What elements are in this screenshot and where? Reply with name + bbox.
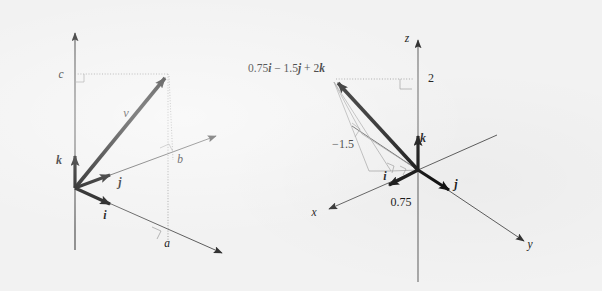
left-right-angle-b bbox=[160, 144, 173, 152]
right-right-angle-z bbox=[400, 79, 412, 89]
left-label-k: k bbox=[56, 153, 62, 167]
formula-coef-2: 1.5 bbox=[284, 62, 299, 74]
formula-coef-1: 0.75 bbox=[248, 62, 268, 74]
left-right-angle-a bbox=[152, 227, 161, 239]
figure-root: c v k j i b a bbox=[0, 0, 602, 291]
right-unit-vector-j bbox=[418, 170, 449, 190]
left-label-i: i bbox=[103, 208, 107, 222]
left-label-b: b bbox=[177, 153, 183, 165]
right-formula-label: 0.75i − 1.5j + 2k bbox=[248, 62, 325, 75]
right-guide-tip-to-origin-proj bbox=[334, 82, 391, 171]
right-label-value-y: −1.5 bbox=[332, 137, 354, 151]
right-label-k: k bbox=[420, 131, 426, 145]
left-right-angle-c bbox=[75, 74, 84, 82]
right-label-z-axis: z bbox=[404, 32, 410, 44]
right-panel-group: 0.75i − 1.5j + 2k z 2 −1.5 k i j 0.75 x … bbox=[248, 32, 533, 282]
left-label-a: a bbox=[164, 237, 170, 249]
right-right-angle-base bbox=[387, 163, 394, 173]
right-x-axis-back bbox=[418, 135, 497, 170]
left-panel-group: c v k j i b a bbox=[56, 33, 222, 253]
right-label-y-axis: y bbox=[526, 238, 533, 251]
right-vector bbox=[338, 83, 418, 170]
right-label-value-z: 2 bbox=[428, 71, 434, 85]
right-label-j: j bbox=[452, 177, 458, 191]
diagram-canvas: c v k j i b a bbox=[0, 0, 602, 291]
right-label-x-axis: x bbox=[310, 206, 317, 218]
left-label-j: j bbox=[116, 175, 122, 189]
left-label-c: c bbox=[58, 68, 63, 80]
left-label-v: v bbox=[123, 106, 129, 120]
right-guide-tip-to-yproj bbox=[334, 82, 362, 134]
right-unit-vector-i bbox=[389, 170, 418, 185]
right-label-value-x: 0.75 bbox=[391, 195, 412, 209]
left-unit-vector-i bbox=[75, 188, 110, 204]
formula-unit-k: k bbox=[319, 62, 325, 74]
